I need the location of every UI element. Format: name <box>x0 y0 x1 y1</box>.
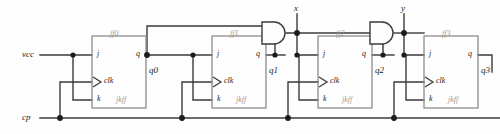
ff1-kind-label: jkff <box>236 96 246 104</box>
ff0-pin-q: q <box>136 50 140 58</box>
ff2-clk-edge-icon <box>319 77 327 87</box>
junction-dot <box>190 52 195 57</box>
ff0-pin-k: k <box>97 95 101 103</box>
ff3-name-label: ff3 <box>442 30 450 38</box>
junction-dot <box>272 52 277 57</box>
wire-x-to-ff2-k <box>299 55 318 100</box>
junction-dot <box>294 52 299 57</box>
junction-dot <box>57 115 63 121</box>
ff1-pin-k: k <box>217 95 221 103</box>
wire-y-to-ff3-j <box>404 33 424 55</box>
ff1-name-label: ff1 <box>230 30 238 38</box>
ff1-pin-clk: clk <box>224 77 233 85</box>
wire-x-to-ff2-j <box>297 33 318 55</box>
ff2-kind-label: jkff <box>342 96 352 104</box>
junction-dot <box>70 52 75 57</box>
wire-y-to-ff3-k <box>406 55 424 100</box>
schematic-canvas <box>0 0 500 134</box>
input-label-cp: cp <box>22 113 31 122</box>
junction-dot <box>179 115 185 121</box>
ff1-pin-j: j <box>217 50 219 58</box>
ff0-pin-clk: clk <box>104 77 113 85</box>
ff2-name-label: ff2 <box>336 30 344 38</box>
ff1-pin-q: q <box>256 50 260 58</box>
ff3-pin-q: q <box>468 50 472 58</box>
ff0-clk-edge-icon <box>93 77 101 87</box>
ff2-pin-j: j <box>323 50 325 58</box>
junction-dot <box>294 30 300 36</box>
output-label-q2: q2 <box>375 66 384 75</box>
ff3-pin-k: k <box>429 95 433 103</box>
circuit-diagram: vcc cp ff0 j clk k jkff q q0 ff1 j clk k… <box>0 0 500 134</box>
ff2-pin-k: k <box>323 95 327 103</box>
junction-dot <box>285 115 291 121</box>
wire-vcc-to-ff0-k <box>73 55 92 100</box>
ff3-kind-label: jkff <box>448 96 458 104</box>
ff3-clk-edge-icon <box>425 77 433 87</box>
ff1-clk-edge-icon <box>213 77 221 87</box>
junction-dot <box>401 52 406 57</box>
output-label-q3: q3 <box>481 66 490 75</box>
net-label-x: x <box>294 4 298 13</box>
ff3-pin-clk: clk <box>436 77 445 85</box>
ff2-pin-q: q <box>362 50 366 58</box>
ff3-pin-j: j <box>429 50 431 58</box>
junction-dot <box>380 52 385 57</box>
junction-dot <box>391 115 397 121</box>
ff2-pin-clk: clk <box>330 77 339 85</box>
wire-q0-to-and1-in-a <box>147 26 262 55</box>
clk-triangles <box>93 77 433 87</box>
input-label-vcc: vcc <box>22 50 34 59</box>
output-label-q1: q1 <box>269 66 278 75</box>
net-label-y: y <box>401 4 405 13</box>
and2-gate-icon <box>370 22 393 44</box>
ff0-pin-j: j <box>97 50 99 58</box>
ff0-kind-label: jkff <box>116 96 126 104</box>
output-label-q0: q0 <box>149 66 158 75</box>
and1-gate-icon <box>262 22 285 44</box>
junction-dot <box>144 52 150 58</box>
ff0-name-label: ff0 <box>110 30 118 38</box>
wire-q0-to-ff1-k <box>193 55 212 100</box>
junction-dot <box>401 30 407 36</box>
